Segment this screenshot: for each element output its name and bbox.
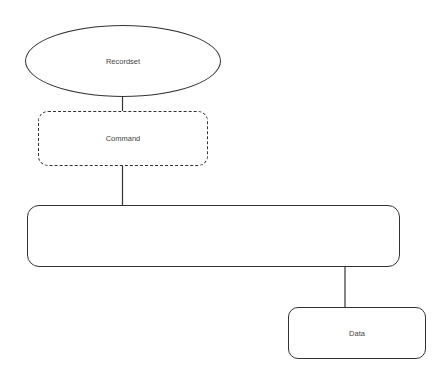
node-data-label: Data [349,329,365,338]
node-connection[interactable]: Connection [27,205,400,267]
node-command[interactable]: Command [38,111,208,166]
node-recordset-label: Recordset [106,57,140,66]
node-data[interactable]: Data [288,307,426,359]
node-command-label: Command [106,134,141,143]
diagram-canvas: Recordset Command Connection Data [0,0,447,382]
node-recordset[interactable]: Recordset [25,25,221,97]
